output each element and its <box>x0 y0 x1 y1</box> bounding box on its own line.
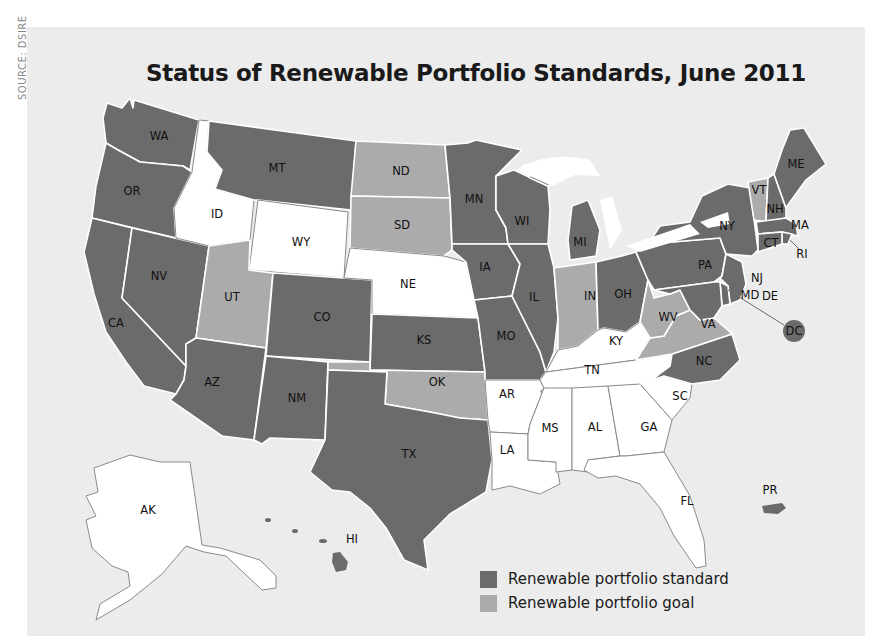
label-ND: ND <box>392 164 410 178</box>
label-WV: WV <box>658 310 677 324</box>
label-NY: NY <box>719 219 736 233</box>
label-OH: OH <box>614 287 632 301</box>
label-ID: ID <box>211 207 223 221</box>
state-HI[interactable] <box>332 552 348 572</box>
label-AK: AK <box>140 503 156 517</box>
label-CO: CO <box>313 310 330 324</box>
label-MI: MI <box>573 235 586 249</box>
label-IN: IN <box>584 289 596 303</box>
hawaii-island-kauai <box>265 518 271 522</box>
label-KY: KY <box>609 334 624 348</box>
legend-swatch-standard <box>480 571 497 588</box>
label-RI: RI <box>796 247 807 261</box>
label-WA: WA <box>150 129 169 143</box>
label-SD: SD <box>394 218 410 232</box>
label-SC: SC <box>672 389 687 403</box>
label-MA: MA <box>791 218 809 232</box>
label-IL: IL <box>529 290 539 304</box>
hawaii-island-maui <box>319 539 327 543</box>
hawaii-island-oahu <box>292 529 298 533</box>
label-WI: WI <box>515 214 530 228</box>
state-FL[interactable] <box>584 452 706 568</box>
legend-item-standard: Renewable portfolio standard <box>480 567 729 591</box>
label-KS: KS <box>417 333 432 347</box>
label-VA: VA <box>701 317 716 331</box>
legend-item-goal: Renewable portfolio goal <box>480 591 729 615</box>
label-IA: IA <box>479 260 490 274</box>
legend: Renewable portfolio standard Renewable p… <box>480 567 729 615</box>
label-MD: MD <box>741 288 760 302</box>
legend-label-standard: Renewable portfolio standard <box>508 570 729 588</box>
label-DC: DC <box>786 324 803 338</box>
label-NC: NC <box>696 354 713 368</box>
label-MT: MT <box>269 161 287 175</box>
label-TN: TN <box>583 363 600 377</box>
label-AL: AL <box>588 420 603 434</box>
label-WY: WY <box>292 235 311 249</box>
label-NM: NM <box>288 391 307 405</box>
label-NH: NH <box>766 202 783 216</box>
label-TX: TX <box>401 447 417 461</box>
label-FL: FL <box>680 494 694 508</box>
label-CA: CA <box>108 316 124 330</box>
label-AR: AR <box>499 387 515 401</box>
label-MO: MO <box>497 329 516 343</box>
label-AZ: AZ <box>204 375 220 389</box>
label-PR: PR <box>763 483 778 497</box>
state-MI[interactable] <box>568 200 600 260</box>
label-MS: MS <box>541 421 558 435</box>
label-NJ: NJ <box>751 271 763 285</box>
legend-label-goal: Renewable portfolio goal <box>508 594 694 612</box>
label-LA: LA <box>500 443 515 457</box>
state-AK[interactable] <box>86 455 276 620</box>
label-OR: OR <box>123 184 140 198</box>
label-CT: CT <box>763 236 779 250</box>
state-PR[interactable] <box>762 503 786 514</box>
label-OK: OK <box>429 375 446 389</box>
legend-swatch-goal <box>480 595 497 612</box>
label-NV: NV <box>151 269 168 283</box>
label-HI: HI <box>346 532 358 546</box>
label-MN: MN <box>465 192 484 206</box>
state-RI[interactable] <box>782 232 792 244</box>
label-UT: UT <box>224 290 240 304</box>
label-ME: ME <box>787 157 804 171</box>
label-GA: GA <box>641 420 658 434</box>
us-map: WA OR CA NV ID MT WY UT AZ CO NM ND SD N… <box>0 0 880 641</box>
label-PA: PA <box>698 258 712 272</box>
label-DE: DE <box>762 289 778 303</box>
label-VT: VT <box>752 183 768 197</box>
label-NE: NE <box>400 277 416 291</box>
